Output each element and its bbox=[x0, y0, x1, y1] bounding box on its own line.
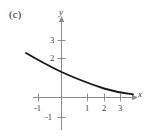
figure-panel: (c) y x -1 1 2 3 3 2 -1 bbox=[0, 0, 150, 136]
y-axis-label: y bbox=[59, 7, 63, 17]
x-tick-label-1: 1 bbox=[85, 103, 89, 113]
x-axis-label: x bbox=[138, 89, 142, 99]
graph-canvas bbox=[0, 0, 150, 136]
x-tick-label-2: 2 bbox=[102, 103, 106, 113]
x-tick-label-3: 3 bbox=[118, 103, 122, 113]
y-tick-label-neg1: -1 bbox=[45, 112, 52, 122]
exponential-decay-curve bbox=[26, 53, 133, 94]
x-tick-label-neg1: -1 bbox=[34, 103, 41, 113]
y-tick-label-2: 2 bbox=[50, 53, 54, 63]
y-tick-label-3: 3 bbox=[50, 35, 54, 45]
